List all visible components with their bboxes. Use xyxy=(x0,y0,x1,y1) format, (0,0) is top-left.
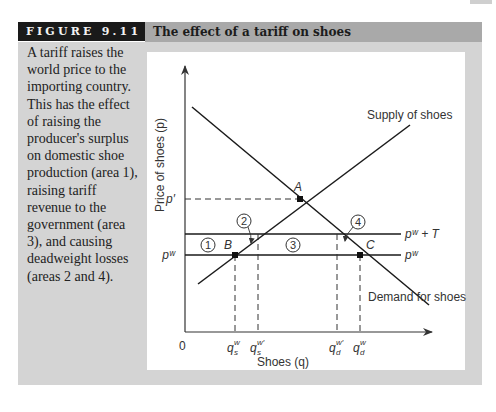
point-b-marker xyxy=(232,252,238,258)
tariff-diagram: 1 2 3 4 A B C Supply of shoes Demand for… xyxy=(0,0,496,412)
svg-text:d: d xyxy=(336,348,341,357)
point-a-marker xyxy=(297,196,303,202)
area-2-label: 2 xyxy=(241,215,247,227)
qs-w-label: q w s xyxy=(227,338,241,357)
y-axis-label: Price of shoes (p) xyxy=(153,118,167,212)
area-3-label: 3 xyxy=(290,239,296,251)
svg-text:w′: w′ xyxy=(257,338,265,347)
svg-text:w′: w′ xyxy=(336,338,344,347)
origin-label: 0 xyxy=(179,339,186,353)
svg-text:s: s xyxy=(234,348,238,357)
svg-text:s: s xyxy=(257,348,261,357)
demand-label: Demand for shoes xyxy=(368,290,466,304)
point-c-label: C xyxy=(366,238,375,252)
point-c-marker xyxy=(357,252,363,258)
point-a-label: A xyxy=(293,180,302,194)
svg-text:w: w xyxy=(234,338,241,347)
area-1-label: 1 xyxy=(205,239,211,251)
pw-plus-t-label: pʷ + T xyxy=(404,227,440,241)
svg-text:q: q xyxy=(250,341,257,355)
qd-w-label: q w d xyxy=(353,338,367,357)
svg-text:d: d xyxy=(360,348,365,357)
svg-text:q: q xyxy=(353,341,360,355)
x-axis-label: Shoes (q) xyxy=(257,355,309,369)
supply-curve xyxy=(198,125,410,284)
area-4-label: 4 xyxy=(355,216,361,228)
svg-text:w: w xyxy=(360,338,367,347)
pw-label-left: pʷ xyxy=(161,248,176,262)
supply-label: Supply of shoes xyxy=(367,108,452,122)
pw-label-right: pʷ xyxy=(404,248,419,262)
svg-text:q: q xyxy=(329,341,336,355)
qd-w-prime-label: q w′ d xyxy=(329,338,344,357)
point-b-label: B xyxy=(224,238,232,252)
svg-text:q: q xyxy=(227,341,234,355)
